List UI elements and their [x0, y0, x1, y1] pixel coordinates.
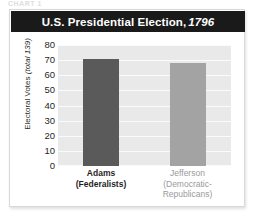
y-axis-tick-60: 60	[44, 70, 55, 80]
page-title: U.S. Presidential Election,1796	[42, 16, 215, 28]
x-axis-category-labels: Adams (Federalists) Jefferson (Democrati…	[58, 168, 231, 208]
y-axis-tick-20: 20	[44, 131, 55, 141]
x-axis-label-jefferson-name: Jefferson	[144, 168, 231, 179]
x-axis-label-adams-name: Adams	[58, 168, 144, 179]
y-axis-tick-30: 30	[44, 116, 55, 126]
clipped-header-text: CHART 1	[8, 0, 128, 6]
bar-jefferson	[170, 63, 206, 166]
plot-area	[58, 45, 231, 166]
bar-adams	[83, 59, 119, 166]
y-axis-tick-labels: 80706050403020100	[33, 40, 55, 166]
x-axis-label-adams: Adams (Federalists)	[58, 168, 144, 189]
x-axis-label-jefferson: Jefferson (Democratic- Republicans)	[144, 168, 231, 200]
x-axis-label-jefferson-party-line1: (Democratic-	[144, 179, 231, 190]
x-axis-label-adams-party: (Federalists)	[58, 179, 144, 190]
chart-plot-region: Electoral Votes (total 139) 807060504030…	[11, 32, 245, 207]
y-axis-title-italic: (total 139)	[23, 38, 32, 74]
chart-title-main: U.S. Presidential Election,	[42, 16, 187, 28]
y-axis-tick-10: 10	[44, 146, 55, 156]
y-axis-tick-50: 50	[44, 85, 55, 95]
chart-title-year: 1796	[188, 16, 214, 28]
chart-title-bar: U.S. Presidential Election,1796	[11, 11, 245, 32]
gridline-80	[58, 45, 231, 46]
y-axis-tick-0: 0	[50, 161, 55, 171]
y-axis-title-plain: Electoral Votes	[23, 76, 32, 129]
y-axis-tick-80: 80	[44, 40, 55, 50]
y-axis-tick-70: 70	[44, 55, 55, 65]
chart-card: U.S. Presidential Election,1796 Electora…	[9, 9, 245, 207]
y-axis-tick-40: 40	[44, 101, 55, 111]
x-axis-label-jefferson-party-line2: Republicans)	[144, 189, 231, 200]
